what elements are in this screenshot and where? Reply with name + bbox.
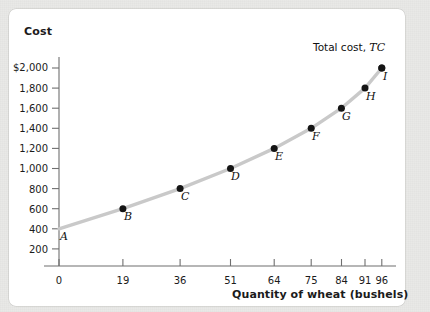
point-label-i: I	[383, 70, 387, 83]
x-tick-label-51: 51	[216, 275, 246, 286]
point-label-a: A	[60, 230, 68, 243]
y-tick-label-1600: 1,600	[0, 103, 48, 114]
x-tick-label-0: 0	[44, 275, 74, 286]
y-axis-ticks	[52, 68, 59, 249]
y-tick-label-800: 800	[0, 184, 48, 195]
series-annotation-text: Total cost,	[313, 41, 366, 53]
point-label-d: D	[231, 170, 240, 183]
chart-figure: Cost Quantity of wheat (bushels) 200 400…	[0, 0, 430, 312]
x-axis-title: Quantity of wheat (bushels)	[232, 288, 406, 301]
y-tick-label-1800: 1,800	[0, 83, 48, 94]
x-tick-label-75: 75	[296, 275, 326, 286]
x-tick-label-96: 96	[367, 275, 397, 286]
point-label-h: H	[366, 90, 376, 103]
x-tick-label-19: 19	[108, 275, 138, 286]
point-label-e: E	[275, 150, 283, 163]
point-label-f: F	[312, 130, 320, 143]
y-axis-title: Cost	[24, 25, 52, 38]
y-tick-label-400: 400	[0, 224, 48, 235]
y-tick-label-1400: 1,400	[0, 123, 48, 134]
point-label-c: C	[181, 190, 189, 203]
y-tick-label-1000: 1,000	[0, 163, 48, 174]
point-label-g: G	[342, 110, 351, 123]
point-label-b: B	[124, 210, 132, 223]
x-tick-label-64: 64	[259, 275, 289, 286]
series-annotation: Total cost, TC	[313, 41, 385, 54]
x-tick-label-36: 36	[165, 275, 195, 286]
data-point-markers	[119, 65, 385, 213]
total-cost-curve	[59, 68, 382, 229]
y-tick-label-600: 600	[0, 204, 48, 215]
y-tick-label-2000: $2,000	[0, 62, 48, 73]
series-annotation-symbol: TC	[369, 41, 385, 54]
y-tick-label-200: 200	[0, 244, 48, 255]
x-axis-ticks	[59, 259, 382, 266]
y-tick-label-1200: 1,200	[0, 143, 48, 154]
